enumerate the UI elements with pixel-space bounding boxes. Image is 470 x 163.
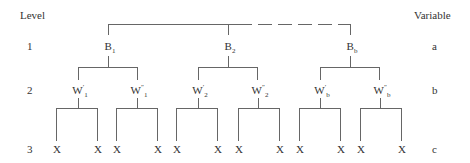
- level-3-label: 3: [27, 143, 33, 155]
- leaf-x: X: [357, 143, 365, 155]
- leaf-x: X: [113, 143, 121, 155]
- variable-header: Variable: [414, 9, 451, 21]
- leaf-x: X: [173, 143, 181, 155]
- node-w2-prime: W′2: [192, 84, 207, 96]
- leaf-x: X: [337, 143, 345, 155]
- node-wb-prime: W′b: [314, 84, 329, 96]
- leaf-x: X: [94, 143, 102, 155]
- variable-b-label: b: [432, 84, 438, 96]
- node-w2-double-prime: W″2: [252, 84, 269, 96]
- level-2-label: 2: [27, 84, 33, 96]
- node-b1: B1: [105, 40, 116, 52]
- node-w1-prime: W′1: [72, 84, 87, 96]
- tree-lines: [0, 0, 470, 163]
- node-w1-double-prime: W″1: [131, 84, 148, 96]
- leaf-x: X: [154, 143, 162, 155]
- leaf-x: X: [398, 143, 406, 155]
- leaf-x: X: [276, 143, 284, 155]
- node-wb-double-prime: W″b: [374, 84, 391, 96]
- leaf-x: X: [214, 143, 222, 155]
- leaf-x: X: [235, 143, 243, 155]
- leaf-x: X: [53, 143, 61, 155]
- node-bb: Bb: [347, 40, 358, 52]
- variable-c-label: c: [432, 143, 437, 155]
- leaf-x: X: [296, 143, 304, 155]
- level-1-label: 1: [27, 40, 33, 52]
- level-header: Level: [20, 9, 45, 21]
- variable-a-label: a: [432, 40, 437, 52]
- node-b2: B2: [225, 40, 236, 52]
